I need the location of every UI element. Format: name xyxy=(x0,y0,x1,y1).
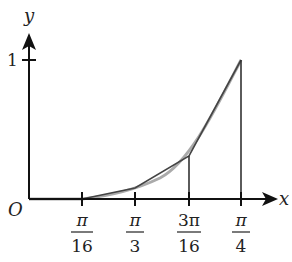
svg-text:16: 16 xyxy=(71,236,93,256)
x-axis-label: x xyxy=(279,188,289,209)
y-axis-label: y xyxy=(23,5,35,26)
svg-text:π: π xyxy=(234,210,247,230)
figure: y x O 1 π 16 π 3 3π 16 π 4 xyxy=(0,0,292,262)
origin-label: O xyxy=(8,199,23,220)
y-tick-label: 1 xyxy=(7,50,18,70)
x-tick-label-pi-16: π 16 xyxy=(71,210,93,256)
x-tick-label-pi-4: π 4 xyxy=(232,210,250,256)
svg-text:π: π xyxy=(128,210,141,230)
svg-text:π: π xyxy=(75,210,88,230)
svg-text:16: 16 xyxy=(178,236,200,256)
svg-text:4: 4 xyxy=(236,236,247,256)
function-curve xyxy=(29,60,241,199)
svg-text:3π: 3π xyxy=(178,210,200,230)
x-tick-label-3pi-16: 3π 16 xyxy=(177,210,201,256)
x-tick-label-pi-3: π 3 xyxy=(126,210,144,256)
svg-text:3: 3 xyxy=(130,236,141,256)
